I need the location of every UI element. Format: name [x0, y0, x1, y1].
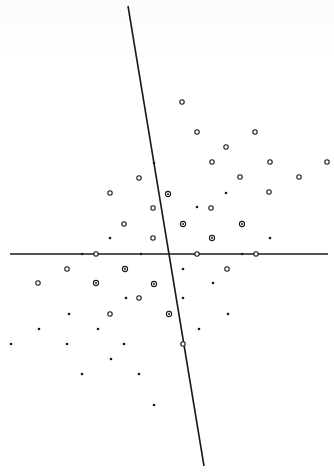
circled-dot-point — [180, 221, 185, 226]
circled-dot-point — [166, 311, 171, 316]
circled-dot-point — [209, 235, 214, 240]
open-circle-point — [209, 206, 213, 210]
circled-dot-point — [165, 191, 170, 196]
circled-dot-point — [93, 280, 98, 285]
filled-dot-point — [110, 358, 113, 361]
filled-dot-point — [123, 343, 126, 346]
open-circle-point — [297, 175, 301, 179]
axes-group — [10, 6, 328, 466]
open-circle-point — [253, 130, 257, 134]
filled-dot-point — [269, 237, 272, 240]
open-circle-point — [195, 252, 199, 256]
filled-dot-point — [97, 328, 100, 331]
open-circle-point — [151, 206, 155, 210]
open-circle-point — [325, 160, 329, 164]
filled-dot-point — [10, 343, 13, 346]
skew-axis — [128, 6, 204, 466]
open-circle-point — [238, 175, 242, 179]
filled-dot-point — [227, 313, 230, 316]
filled-dot-point — [140, 253, 143, 256]
filled-dot-point — [81, 253, 84, 256]
circled-dot-point — [239, 221, 244, 226]
open-circle-point — [267, 190, 271, 194]
filled-dot-point — [109, 237, 112, 240]
filled-dot-point — [241, 253, 244, 256]
filled-dot-point — [68, 313, 71, 316]
open-circle-point — [137, 176, 141, 180]
open-circle-point — [151, 236, 155, 240]
filled-dot-point — [182, 268, 185, 271]
open-circle-point — [268, 160, 272, 164]
filled-dot-point — [198, 328, 201, 331]
filled-dot-point — [138, 373, 141, 376]
circled-dot-point — [122, 266, 127, 271]
open-circle-point — [210, 160, 214, 164]
open-circle-point — [195, 130, 199, 134]
filled-dot-point — [38, 328, 41, 331]
open-circle-point — [94, 252, 98, 256]
open-circle-point — [224, 145, 228, 149]
filled-dot-point — [225, 192, 228, 195]
circled-dot-point — [151, 281, 156, 286]
open-circle-point — [225, 267, 229, 271]
filled-dot-point — [182, 297, 185, 300]
filled-dot-point — [125, 297, 128, 300]
filled-dot-point — [196, 206, 199, 209]
open-circle-point — [108, 191, 112, 195]
open-circle-point — [122, 222, 126, 226]
filled-dot-point — [66, 343, 69, 346]
open-circle-point — [108, 312, 112, 316]
lattice-diagram — [0, 0, 334, 474]
open-circle-point — [181, 342, 185, 346]
open-circle-point — [36, 281, 40, 285]
filled-dot-point — [153, 162, 156, 165]
open-circle-point — [180, 100, 184, 104]
open-circle-point — [65, 267, 69, 271]
open-circle-point — [137, 296, 141, 300]
filled-dot-point — [81, 373, 84, 376]
filled-dot-point — [153, 404, 156, 407]
filled-dot-point — [212, 282, 215, 285]
open-circle-point — [254, 252, 258, 256]
